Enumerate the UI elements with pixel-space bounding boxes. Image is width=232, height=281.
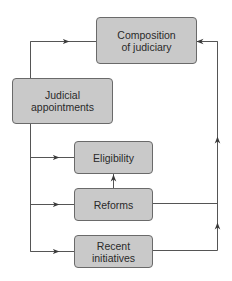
node-label: Reforms: [94, 199, 134, 211]
node-composition-of-judiciary: Composition of judiciary: [96, 17, 197, 64]
node-label: Judicial appointments: [31, 89, 94, 113]
node-label: Eligibility: [93, 152, 134, 164]
node-label: Composition of judiciary: [117, 29, 175, 53]
node-judicial-appointments: Judicial appointments: [12, 78, 113, 124]
node-eligibility: Eligibility: [74, 141, 153, 174]
node-recent-initiatives: Recent initiatives: [74, 235, 153, 268]
node-label: Recent initiatives: [92, 240, 135, 264]
node-reforms: Reforms: [74, 188, 153, 221]
